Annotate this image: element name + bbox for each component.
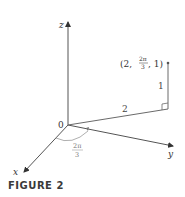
figure-caption: FIGURE 2 bbox=[8, 180, 64, 191]
y-axis bbox=[68, 125, 173, 146]
point-label: (2, bbox=[120, 59, 132, 69]
x-axis-label: x bbox=[13, 167, 18, 177]
z-axis-label: z bbox=[58, 20, 64, 30]
origin-label: 0 bbox=[58, 120, 64, 130]
y-axis-label: y bbox=[167, 149, 174, 159]
point-marker bbox=[167, 62, 170, 65]
point-theta-denominator: 3 bbox=[141, 63, 145, 70]
radius-segment bbox=[68, 109, 168, 125]
angle-numerator: 2π bbox=[73, 142, 82, 150]
x-axis bbox=[24, 125, 68, 172]
angle-denominator: 3 bbox=[75, 151, 79, 159]
point-label-close: , 1) bbox=[148, 59, 163, 69]
radius-label: 2 bbox=[122, 104, 128, 114]
cylindrical-coordinates-diagram: z y x 0 2 1 (2, 2π 3 , 1) 2π 3 bbox=[0, 0, 185, 197]
height-label: 1 bbox=[158, 81, 164, 91]
point-theta-numerator: 2π bbox=[139, 55, 147, 62]
